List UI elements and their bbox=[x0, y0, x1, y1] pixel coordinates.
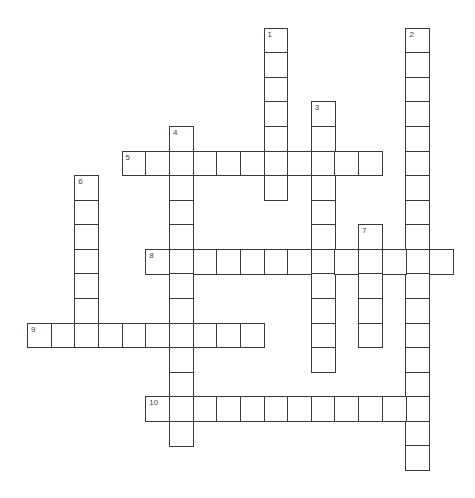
crossword-cell[interactable] bbox=[405, 101, 430, 127]
crossword-cell[interactable] bbox=[311, 249, 336, 275]
crossword-cell[interactable] bbox=[405, 347, 430, 373]
crossword-cell[interactable] bbox=[405, 396, 430, 422]
crossword-cell[interactable] bbox=[264, 396, 289, 422]
crossword-cell[interactable] bbox=[405, 126, 430, 152]
crossword-cell[interactable] bbox=[405, 323, 430, 349]
crossword-cell[interactable] bbox=[311, 323, 336, 349]
crossword-cell[interactable] bbox=[311, 224, 336, 250]
crossword-cell[interactable] bbox=[334, 249, 359, 275]
crossword-cell[interactable] bbox=[264, 77, 289, 103]
crossword-cell[interactable] bbox=[145, 323, 170, 349]
crossword-cell[interactable] bbox=[193, 151, 218, 177]
crossword-cell[interactable] bbox=[311, 396, 336, 422]
crossword-cell[interactable] bbox=[405, 445, 430, 471]
crossword-cell[interactable]: 6 bbox=[74, 175, 99, 201]
crossword-cell[interactable] bbox=[145, 151, 170, 177]
crossword-cell[interactable] bbox=[311, 200, 336, 226]
crossword-cell[interactable] bbox=[169, 298, 194, 324]
crossword-cell[interactable] bbox=[358, 298, 383, 324]
crossword-cell[interactable] bbox=[382, 396, 407, 422]
crossword-cell[interactable] bbox=[240, 323, 265, 349]
crossword-cell[interactable] bbox=[169, 323, 194, 349]
crossword-cell[interactable] bbox=[74, 224, 99, 250]
crossword-cell[interactable] bbox=[51, 323, 76, 349]
crossword-cell[interactable] bbox=[405, 421, 430, 447]
crossword-cell[interactable] bbox=[405, 224, 430, 250]
crossword-cell[interactable] bbox=[358, 396, 383, 422]
crossword-cell[interactable] bbox=[405, 175, 430, 201]
crossword-cell[interactable] bbox=[240, 151, 265, 177]
crossword-cell[interactable] bbox=[311, 126, 336, 152]
crossword-cell[interactable] bbox=[240, 396, 265, 422]
crossword-cell[interactable] bbox=[311, 273, 336, 299]
crossword-cell[interactable] bbox=[240, 249, 265, 275]
crossword-cell[interactable] bbox=[405, 151, 430, 177]
crossword-cell[interactable] bbox=[358, 249, 383, 275]
crossword-cell[interactable] bbox=[74, 200, 99, 226]
clue-number: 4 bbox=[173, 128, 177, 137]
crossword-cell[interactable] bbox=[311, 151, 336, 177]
crossword-cell[interactable] bbox=[287, 396, 312, 422]
crossword-cell[interactable]: 1 bbox=[264, 28, 289, 54]
crossword-cell[interactable] bbox=[405, 52, 430, 78]
clue-number: 5 bbox=[126, 153, 130, 162]
crossword-cell[interactable] bbox=[429, 249, 454, 275]
crossword-cell[interactable] bbox=[358, 323, 383, 349]
crossword-cell[interactable] bbox=[169, 421, 194, 447]
crossword-cell[interactable] bbox=[74, 273, 99, 299]
crossword-cell[interactable] bbox=[311, 298, 336, 324]
crossword-cell[interactable] bbox=[169, 200, 194, 226]
crossword-cell[interactable]: 4 bbox=[169, 126, 194, 152]
crossword-cell[interactable] bbox=[74, 323, 99, 349]
crossword-cell[interactable]: 8 bbox=[145, 249, 170, 275]
crossword-cell[interactable]: 10 bbox=[145, 396, 170, 422]
crossword-cell[interactable] bbox=[405, 200, 430, 226]
crossword-cell[interactable] bbox=[169, 372, 194, 398]
crossword-cell[interactable] bbox=[169, 396, 194, 422]
crossword-cell[interactable]: 2 bbox=[405, 28, 430, 54]
crossword-cell[interactable] bbox=[169, 347, 194, 373]
crossword-cell[interactable] bbox=[287, 151, 312, 177]
crossword-cell[interactable] bbox=[193, 396, 218, 422]
crossword-cell[interactable] bbox=[122, 323, 147, 349]
crossword-cell[interactable] bbox=[334, 396, 359, 422]
crossword-cell[interactable] bbox=[287, 249, 312, 275]
clue-number: 2 bbox=[409, 30, 413, 39]
crossword-cell[interactable] bbox=[74, 249, 99, 275]
crossword-cell[interactable] bbox=[358, 273, 383, 299]
crossword-cell[interactable] bbox=[311, 175, 336, 201]
crossword-cell[interactable]: 3 bbox=[311, 101, 336, 127]
crossword-cell[interactable] bbox=[193, 249, 218, 275]
crossword-cell[interactable] bbox=[169, 175, 194, 201]
crossword-cell[interactable] bbox=[264, 175, 289, 201]
clue-number: 6 bbox=[78, 177, 82, 186]
crossword-cell[interactable] bbox=[405, 372, 430, 398]
crossword-cell[interactable] bbox=[358, 151, 383, 177]
crossword-cell[interactable] bbox=[169, 151, 194, 177]
crossword-cell[interactable]: 9 bbox=[27, 323, 52, 349]
crossword-cell[interactable] bbox=[169, 249, 194, 275]
crossword-cell[interactable] bbox=[264, 101, 289, 127]
crossword-cell[interactable]: 7 bbox=[358, 224, 383, 250]
crossword-cell[interactable] bbox=[264, 151, 289, 177]
crossword-cell[interactable] bbox=[405, 249, 430, 275]
crossword-cell[interactable] bbox=[264, 249, 289, 275]
crossword-cell[interactable] bbox=[74, 298, 99, 324]
crossword-cell[interactable] bbox=[216, 151, 241, 177]
crossword-cell[interactable] bbox=[382, 249, 407, 275]
crossword-cell[interactable] bbox=[193, 323, 218, 349]
crossword-cell[interactable] bbox=[98, 323, 123, 349]
crossword-cell[interactable]: 5 bbox=[122, 151, 147, 177]
crossword-cell[interactable] bbox=[169, 273, 194, 299]
crossword-cell[interactable] bbox=[405, 298, 430, 324]
crossword-cell[interactable] bbox=[264, 52, 289, 78]
crossword-cell[interactable] bbox=[216, 249, 241, 275]
crossword-cell[interactable] bbox=[405, 77, 430, 103]
crossword-cell[interactable] bbox=[311, 347, 336, 373]
crossword-cell[interactable] bbox=[264, 126, 289, 152]
crossword-cell[interactable] bbox=[405, 273, 430, 299]
crossword-cell[interactable] bbox=[216, 396, 241, 422]
crossword-cell[interactable] bbox=[216, 323, 241, 349]
crossword-cell[interactable] bbox=[169, 224, 194, 250]
crossword-cell[interactable] bbox=[334, 151, 359, 177]
